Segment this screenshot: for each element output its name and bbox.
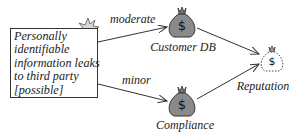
asset-label-reputation: Reputation (228, 79, 298, 94)
threat-diagram: $ $ $ Personally identifiable informatio… (0, 0, 301, 133)
money-bag-icon: $ (261, 46, 283, 71)
threat-line: to third party (14, 70, 94, 83)
svg-text:$: $ (269, 55, 276, 68)
threat-line: information leaks (14, 57, 94, 70)
threat-node[interactable]: Personally identifiable information leak… (10, 28, 98, 98)
asset-label-customer-db: Customer DB (148, 40, 218, 55)
money-bag-icon: $ (169, 7, 195, 37)
svg-text:$: $ (178, 18, 186, 33)
svg-text:$: $ (178, 97, 186, 112)
edge-label-moderate: moderate (110, 12, 155, 27)
edge-label-minor: minor (122, 73, 151, 88)
threat-line: [possible] (14, 84, 94, 97)
money-bag-icon: $ (169, 86, 195, 116)
asset-label-compliance: Compliance (150, 118, 220, 133)
threat-line: Personally (14, 30, 94, 43)
threat-line: identifiable (14, 43, 94, 56)
